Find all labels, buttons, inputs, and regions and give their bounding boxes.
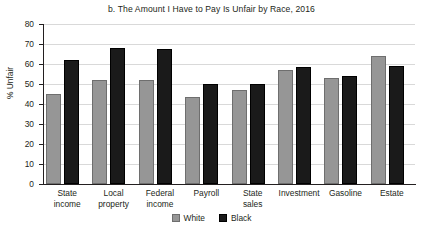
legend-label-white: White xyxy=(184,213,205,223)
y-axis-tick-mark xyxy=(39,144,43,145)
y-axis-tick-label: 20 xyxy=(8,140,34,148)
bar-black xyxy=(296,67,311,184)
bar-black xyxy=(64,60,79,184)
y-axis-tick-label: 30 xyxy=(8,120,34,128)
y-axis-tick-mark xyxy=(39,24,43,25)
y-axis-tick-label: 70 xyxy=(8,40,34,48)
legend-label-black: Black xyxy=(231,213,251,223)
bar-group xyxy=(137,24,183,184)
bar-chart: b. The Amount I Have to Pay Is Unfair by… xyxy=(0,0,423,235)
y-axis-tick-mark xyxy=(39,104,43,105)
y-axis-tick-mark xyxy=(39,124,43,125)
x-axis-tick-line: income xyxy=(130,199,190,210)
x-axis-tick-line: sales xyxy=(223,199,283,210)
bar-white xyxy=(324,78,339,184)
plot-area xyxy=(44,24,415,184)
bar-black xyxy=(389,66,404,184)
y-axis-tick-label: 80 xyxy=(8,20,34,28)
black-swatch-icon xyxy=(219,214,227,222)
y-axis-tick-label: 0 xyxy=(8,180,34,188)
white-swatch-icon xyxy=(172,214,180,222)
bar-black xyxy=(157,49,172,184)
bar-group xyxy=(369,24,415,184)
bar-group xyxy=(322,24,368,184)
x-axis-tick-line: Estate xyxy=(362,188,422,199)
chart-legend: White Black xyxy=(0,213,423,223)
bar-group xyxy=(183,24,229,184)
bar-white xyxy=(278,70,293,184)
bar-black xyxy=(203,84,218,184)
y-axis-tick-mark xyxy=(39,64,43,65)
bar-white xyxy=(371,56,386,184)
bar-white xyxy=(46,94,61,184)
bar-group xyxy=(90,24,136,184)
bar-black xyxy=(110,48,125,184)
y-axis-tick-label: 10 xyxy=(8,160,34,168)
bar-white xyxy=(139,80,154,184)
y-axis-tick-mark xyxy=(39,164,43,165)
bar-black xyxy=(342,76,357,184)
y-axis-tick-label: 50 xyxy=(8,80,34,88)
bar-group xyxy=(276,24,322,184)
bar-black xyxy=(250,84,265,184)
chart-title: b. The Amount I Have to Pay Is Unfair by… xyxy=(0,4,423,14)
y-axis-tick-mark xyxy=(39,84,43,85)
bar-white xyxy=(92,80,107,184)
legend-item-black: Black xyxy=(219,213,251,223)
legend-item-white: White xyxy=(172,213,205,223)
y-axis-tick-mark xyxy=(39,44,43,45)
y-axis-tick-label: 60 xyxy=(8,60,34,68)
bar-group xyxy=(230,24,276,184)
y-axis-tick-mark xyxy=(39,184,43,185)
y-axis-tick-label: 40 xyxy=(8,100,34,108)
bar-white xyxy=(185,97,200,184)
x-axis-line xyxy=(43,184,416,185)
x-axis-tick-label: Estate xyxy=(362,188,422,199)
bar-white xyxy=(232,90,247,184)
bar-group xyxy=(44,24,90,184)
